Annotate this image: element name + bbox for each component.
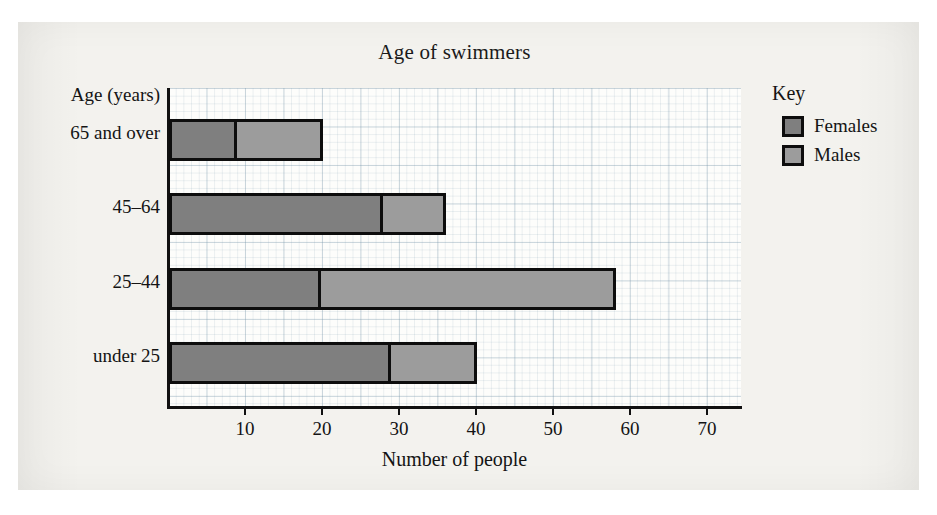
female-swatch <box>782 116 804 137</box>
x-tick <box>475 406 477 415</box>
category-label-3: 25–44 <box>113 271 161 293</box>
bar-segment-males <box>388 345 474 381</box>
bar-segment-males <box>234 122 320 158</box>
legend-label-1: Females <box>814 115 877 137</box>
bar-2 <box>169 193 446 235</box>
category-label-1: 65 and over <box>70 122 160 144</box>
category-label-4: under 25 <box>93 345 160 367</box>
x-tick-label: 60 <box>621 418 640 440</box>
male-swatch <box>782 145 804 166</box>
x-tick <box>244 406 246 415</box>
bar-segment-males <box>380 196 443 232</box>
y-axis-title: Age (years) <box>71 84 160 106</box>
x-tick-label: 50 <box>544 418 563 440</box>
x-axis-title: Number of people <box>168 448 741 471</box>
bar-4 <box>169 342 477 384</box>
legend-title: Key <box>772 82 920 105</box>
x-tick <box>321 406 323 415</box>
x-tick <box>706 406 708 415</box>
legend-entries: FemalesMales <box>770 115 920 166</box>
x-tick-label: 40 <box>467 418 486 440</box>
bar-segment-females <box>172 345 388 381</box>
x-axis-line <box>168 406 742 409</box>
x-tick <box>398 406 400 415</box>
category-label-2: 45–64 <box>113 196 161 218</box>
x-tick-label: 70 <box>698 418 717 440</box>
legend-entry-2: Males <box>782 144 920 166</box>
legend: Key FemalesMales <box>770 82 920 173</box>
legend-label-2: Males <box>814 144 860 166</box>
bar-3 <box>169 268 616 310</box>
bar-segment-females <box>172 122 234 158</box>
chart-page: Age of swimmers 10203040506070 Age (year… <box>0 0 937 515</box>
x-tick <box>552 406 554 415</box>
x-tick-label: 10 <box>236 418 255 440</box>
x-tick-label: 20 <box>313 418 332 440</box>
bar-segment-females <box>172 271 318 307</box>
bar-segment-males <box>318 271 612 307</box>
x-tick-label: 30 <box>390 418 409 440</box>
bar-1 <box>169 119 323 161</box>
category-labels: Age (years) 65 and over45–6425–44under 2… <box>0 0 160 468</box>
bar-segment-females <box>172 196 380 232</box>
legend-entry-1: Females <box>782 115 920 137</box>
x-tick <box>629 406 631 415</box>
chart-title: Age of swimmers <box>168 40 741 65</box>
